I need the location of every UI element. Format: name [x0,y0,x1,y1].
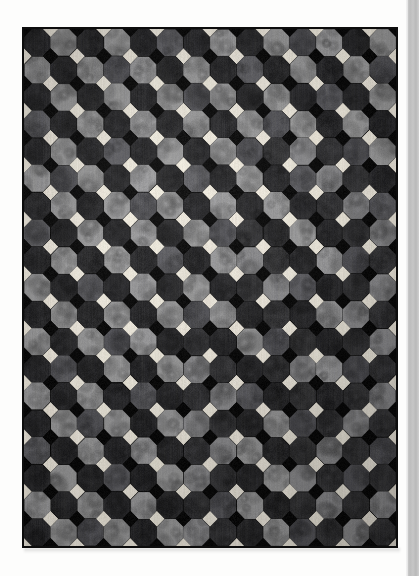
figure-alt-text: Quilt with octagon snowball pattern in g… [0,0,1,1]
quilt-drop-shadow [24,548,400,553]
block-name: snowball / octagon [0,0,1,1]
quilt-photograph [22,27,398,548]
artwork-description: Photograph of a pieced quilt laid flat o… [0,0,1,1]
artwork-title: Quilt with octagon (snowball) block patt… [0,0,1,1]
quilt-pattern-canvas [24,29,396,546]
page-background: Quilt with octagon snowball pattern in g… [0,0,419,576]
page-edge-strip [408,0,419,576]
